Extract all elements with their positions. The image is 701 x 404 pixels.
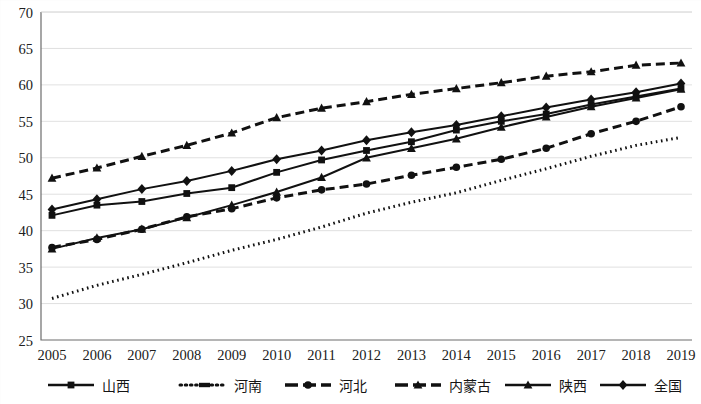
series-3: [48, 58, 686, 181]
legend-item-label: 陕西: [559, 378, 587, 394]
y-tick-label: 35: [19, 260, 34, 276]
series-marker: [317, 145, 326, 155]
series-marker: [632, 118, 640, 126]
axis-frame: [41, 12, 692, 340]
x-tick-label: 2017: [577, 347, 606, 363]
legend-marker-sample: [199, 383, 210, 387]
x-tick-label: 2007: [127, 347, 156, 363]
y-tick-label: 70: [19, 5, 34, 21]
series-marker: [137, 184, 146, 194]
series-1: [52, 137, 681, 298]
series-marker: [408, 171, 416, 179]
series-marker: [497, 155, 505, 163]
legend-item-label: 河南: [234, 378, 262, 394]
series-marker: [227, 166, 236, 176]
legend-item-5[interactable]: 全国: [600, 378, 682, 394]
x-tick-label: 2010: [262, 347, 291, 363]
series-4: [48, 85, 686, 253]
series-marker: [407, 127, 416, 137]
y-tick-label: 30: [19, 296, 34, 312]
legend-item-label: 全国: [654, 378, 682, 394]
x-tick-label: 2009: [217, 347, 246, 363]
series-marker: [228, 184, 235, 191]
y-tick-label: 40: [19, 223, 34, 239]
series-marker: [183, 190, 190, 197]
series-line: [52, 89, 681, 249]
series-marker: [677, 103, 685, 111]
series-marker: [542, 145, 550, 153]
x-tick-label: 2019: [667, 347, 696, 363]
x-tick-label: 2018: [622, 347, 651, 363]
series-marker: [363, 180, 371, 188]
x-tick-label: 2013: [397, 347, 426, 363]
series-marker: [318, 186, 326, 194]
series-marker: [273, 169, 280, 176]
series-marker: [453, 163, 461, 171]
series-line: [52, 137, 681, 298]
legend-item-4[interactable]: 陕西: [505, 378, 587, 394]
x-tick-label: 2011: [307, 347, 335, 363]
y-tick-label: 65: [19, 41, 34, 57]
legend-item-3[interactable]: 内蒙古: [395, 378, 491, 394]
x-tick-label: 2016: [532, 347, 561, 363]
legend-item-label: 山西: [102, 378, 130, 394]
legend-item-0[interactable]: 山西: [48, 378, 130, 394]
x-tick-label: 2015: [487, 347, 516, 363]
y-tick-label: 55: [19, 114, 34, 130]
legend-item-2[interactable]: 河北: [285, 378, 367, 394]
x-tick-label: 2008: [172, 347, 201, 363]
legend-item-label: 内蒙古: [449, 378, 491, 394]
chart-canvas: 25303540455055606570 2005200620072008200…: [0, 0, 701, 404]
series-marker: [363, 147, 370, 154]
data-series-group: [48, 58, 686, 298]
y-tick-label: 60: [19, 77, 34, 93]
x-tick-label: 2012: [352, 347, 381, 363]
x-tick-label: 2005: [38, 347, 67, 363]
series-marker: [138, 198, 145, 205]
y-tick-label: 50: [19, 150, 34, 166]
x-tick-label: 2006: [82, 347, 111, 363]
y-tick-label: 25: [19, 333, 34, 349]
legend-item-label: 河北: [339, 378, 367, 394]
axis-lines: [41, 12, 692, 340]
series-marker: [272, 154, 281, 164]
legend-item-1[interactable]: 河南: [180, 378, 262, 394]
x-tick-label: 2014: [442, 347, 472, 363]
y-tick-label: 45: [19, 187, 34, 203]
legend-marker-sample: [304, 381, 312, 389]
x-axis-tick-labels: 2005200620072008200920102011201220132014…: [38, 347, 696, 363]
series-marker: [587, 130, 595, 138]
chart-legend: 山西河南河北内蒙古陕西全国: [48, 378, 682, 394]
series-line: [52, 107, 681, 248]
series-marker: [182, 176, 191, 186]
legend-marker-sample: [619, 380, 628, 390]
legend-marker-sample: [68, 382, 75, 389]
series-marker: [318, 157, 325, 164]
series-marker: [362, 135, 371, 145]
y-axis-tick-labels: 25303540455055606570: [19, 5, 34, 349]
line-chart: 25303540455055606570 2005200620072008200…: [0, 0, 701, 404]
